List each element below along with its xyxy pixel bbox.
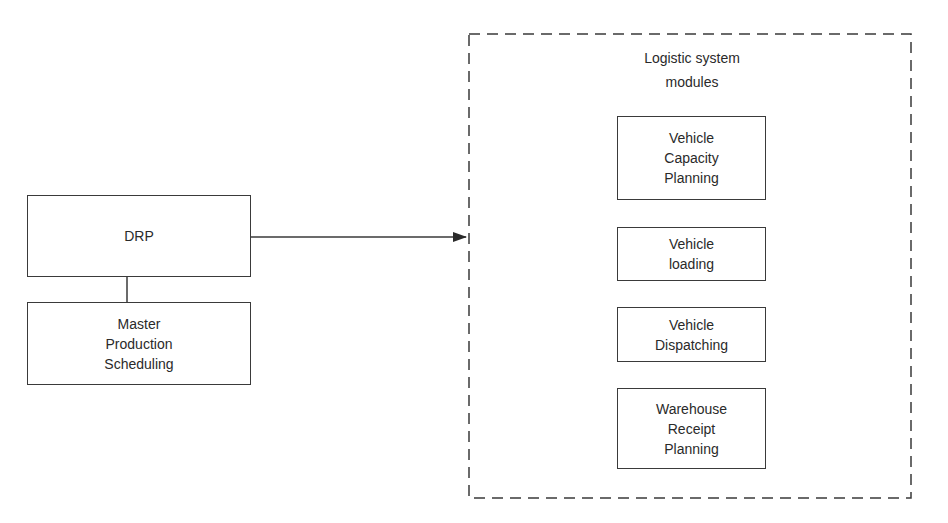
module-vehicle-capacity-planning: Vehicle Capacity Planning: [617, 116, 766, 200]
module-vehicle-loading: Vehicle loading: [617, 227, 766, 281]
module-vehicle-dispatching: Vehicle Dispatching: [617, 307, 766, 362]
module-label: Vehicle Dispatching: [655, 315, 728, 355]
module-warehouse-receipt-planning: Warehouse Receipt Planning: [617, 388, 766, 469]
module-label: Vehicle loading: [669, 234, 714, 274]
module-label: Vehicle Capacity Planning: [664, 128, 719, 188]
logistic-modules-title: Logistic system modules: [580, 46, 804, 94]
master-production-scheduling-box: Master Production Scheduling: [27, 302, 251, 385]
drp-box: DRP: [27, 195, 251, 277]
drp-label: DRP: [124, 226, 154, 246]
mps-label: Master Production Scheduling: [104, 314, 173, 374]
module-label: Warehouse Receipt Planning: [656, 399, 727, 459]
